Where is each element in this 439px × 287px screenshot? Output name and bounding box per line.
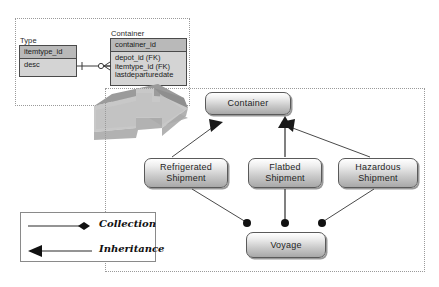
er-relationship-connector (77, 60, 111, 72)
class-label-line1: Flatbed (269, 162, 300, 172)
legend: Collection Inheritance (20, 212, 156, 262)
class-label: Container (228, 98, 269, 109)
er-attribute: desc (24, 61, 73, 69)
inheritance-arrow-icon (26, 238, 98, 263)
class-label: Refrigerated Shipment (160, 162, 212, 184)
legend-label-collection: Collection (99, 218, 156, 229)
diagram-canvas: Type itemtype_id desc Container containe… (0, 0, 439, 287)
class-box-flatbed-shipment[interactable]: Flatbed Shipment (248, 158, 322, 188)
class-label: Voyage (270, 240, 301, 251)
class-label-line1: Hazardous (355, 162, 400, 172)
legend-label-inheritance: Inheritance (99, 243, 164, 254)
legend-item-collection: Collection (21, 213, 157, 238)
legend-item-inheritance: Inheritance (21, 238, 157, 263)
class-label: Flatbed Shipment (265, 162, 305, 184)
er-table-type[interactable]: itemtype_id desc (19, 45, 77, 77)
er-attribute: lastdeparturedate (115, 71, 183, 79)
er-table-caption-type: Type (20, 36, 37, 45)
er-table-container-attributes: depot_id (FK) itemtype_id (FK) lastdepar… (111, 52, 186, 81)
class-label-line2: Shipment (265, 173, 305, 183)
class-box-hazardous-shipment[interactable]: Hazardous Shipment (338, 158, 418, 188)
er-table-type-primary-key: itemtype_id (20, 46, 76, 59)
class-label-line1: Refrigerated (160, 162, 212, 172)
class-label-line2: Shipment (358, 173, 398, 183)
class-box-container[interactable]: Container (205, 92, 291, 115)
class-box-refrigerated-shipment[interactable]: Refrigerated Shipment (144, 158, 228, 188)
class-label: Hazardous Shipment (355, 162, 400, 184)
collection-line-icon (26, 213, 98, 238)
class-label-line2: Shipment (166, 173, 206, 183)
er-table-container-primary-key: container_id (111, 39, 186, 52)
er-table-container[interactable]: container_id depot_id (FK) itemtype_id (… (110, 38, 187, 86)
er-table-caption-container: Container (111, 29, 144, 38)
class-box-voyage[interactable]: Voyage (246, 232, 326, 258)
er-table-type-attributes: desc (20, 59, 76, 71)
